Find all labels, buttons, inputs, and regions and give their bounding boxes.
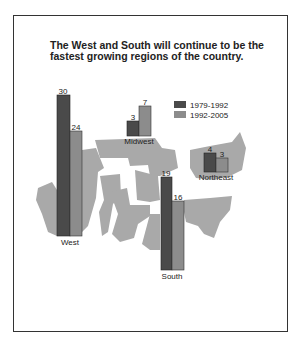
bar-northeast-1979-1992 xyxy=(204,153,216,172)
chart-plot: 30 24 West 3 7 Midwest 4 3 Northeast 19 … xyxy=(0,0,303,352)
bar-midwest-1979-1992 xyxy=(127,121,139,136)
value-northeast-2: 3 xyxy=(220,150,225,159)
legend-swatch-1992-2005 xyxy=(174,111,186,118)
label-west: West xyxy=(61,238,80,247)
bar-west-1979-1992 xyxy=(57,95,70,236)
legend: 1979-1992 1992-2005 xyxy=(174,101,229,120)
bar-midwest-1992-2005 xyxy=(139,106,151,136)
value-west-2: 24 xyxy=(72,123,81,132)
legend-label-1992-2005: 1992-2005 xyxy=(190,111,229,120)
label-midwest: Midwest xyxy=(124,137,154,146)
bar-west-1992-2005 xyxy=(70,131,82,236)
value-midwest-2: 7 xyxy=(143,98,148,107)
value-midwest-1: 3 xyxy=(131,113,136,122)
value-south-1: 19 xyxy=(162,169,171,178)
value-south-2: 16 xyxy=(174,193,183,202)
value-west-1: 30 xyxy=(59,87,68,96)
legend-swatch-1979-1992 xyxy=(174,101,186,108)
value-northeast-1: 4 xyxy=(208,145,213,154)
bar-northeast-1992-2005 xyxy=(216,158,228,172)
legend-label-1979-1992: 1979-1992 xyxy=(190,101,229,110)
bar-south-1992-2005 xyxy=(172,201,184,270)
label-south: South xyxy=(162,272,183,281)
bar-south-1979-1992 xyxy=(161,177,172,270)
label-northeast: Northeast xyxy=(199,173,234,182)
